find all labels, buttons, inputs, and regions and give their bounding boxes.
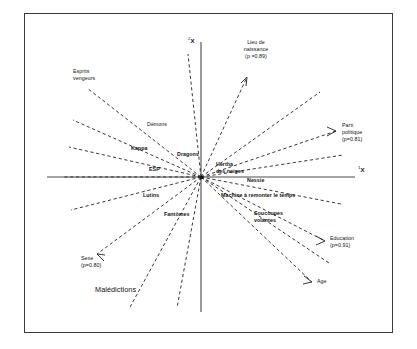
label-dragons: Dragons — [177, 151, 199, 158]
y-axis-label: 2X — [188, 36, 194, 44]
plot-area: 2X 1X Lieu de naissance (p =0.89) Parti … — [25, 14, 394, 334]
label-maledictions: Malédictions — [95, 285, 136, 294]
label-education: Education (p=0.91) — [330, 235, 382, 249]
vector-maledictions — [129, 177, 201, 309]
label-lutins: Lutins — [143, 192, 159, 199]
biplot-svg — [25, 14, 394, 334]
vector-machine-temps — [201, 177, 341, 204]
label-sexe: Sexe (p=0.80) — [81, 255, 125, 269]
figure-container: 2X 1X Lieu de naissance (p =0.89) Parti … — [0, 0, 417, 349]
label-homme-des-neiges: Hertha des neiges — [216, 161, 264, 175]
origin-point — [200, 176, 203, 179]
vector-dragons — [188, 54, 201, 177]
x-axis-label: 1X — [358, 165, 364, 173]
label-fantomes: Fantômes — [164, 211, 189, 218]
label-kappa: Kappa — [131, 145, 147, 152]
label-demons: Démons — [147, 121, 167, 128]
label-machine-a-remonter-le-temps: Machine à remonter le temps — [221, 192, 295, 199]
label-esprits-vengeurs: Esprits vengeurs — [73, 68, 121, 82]
label-parti-politique: Parti politique (p=0.81) — [342, 122, 388, 142]
label-lieu-de-naissance: Lieu de naissance (p =0.89) — [230, 39, 282, 59]
vector-sexe — [97, 177, 201, 261]
plot-frame: 2X 1X Lieu de naissance (p =0.89) Parti … — [24, 13, 393, 333]
vector-lutins — [71, 177, 201, 210]
label-soucoupes-volantes: Soucoupes volantes — [254, 210, 300, 224]
vector-fantomes — [177, 177, 201, 308]
label-nessie: Nessie — [247, 177, 264, 184]
label-esp: ESP — [149, 166, 160, 173]
label-age: Age — [317, 278, 327, 285]
